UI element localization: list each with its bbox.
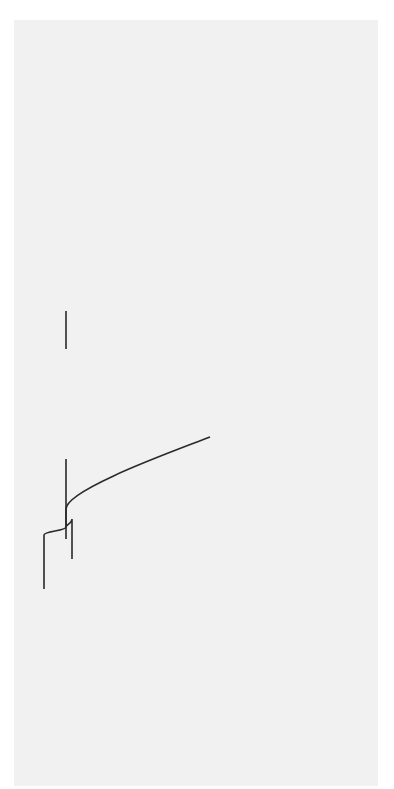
connector-lines	[0, 0, 394, 789]
rotated-mindmap-frame	[0, 0, 394, 789]
